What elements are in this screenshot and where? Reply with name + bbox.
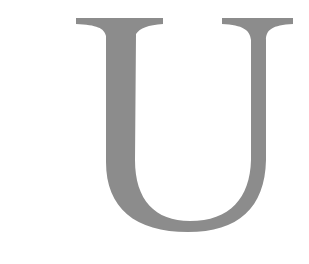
letter-u-icon	[0, 0, 309, 264]
letter-u-glyph: U	[0, 0, 309, 264]
